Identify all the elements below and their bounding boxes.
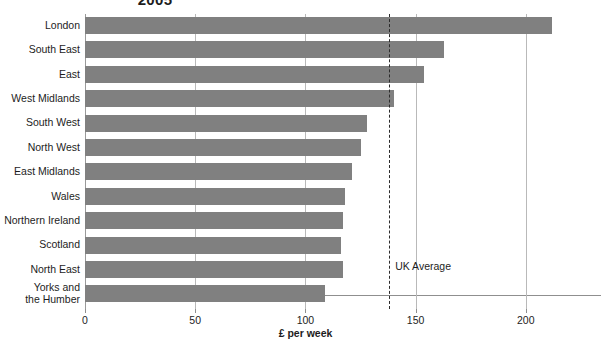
bar bbox=[85, 90, 394, 107]
chart-title: 2005 bbox=[0, 0, 310, 8]
category-label: South West bbox=[2, 117, 80, 129]
bar bbox=[85, 285, 325, 302]
bar bbox=[85, 17, 552, 34]
bar bbox=[85, 237, 341, 254]
bar bbox=[85, 212, 343, 229]
category-label-line: East Midlands bbox=[2, 166, 80, 178]
x-tick-50 bbox=[195, 309, 196, 313]
bar bbox=[85, 66, 424, 83]
bar bbox=[85, 261, 343, 278]
category-label-line: the Humber bbox=[2, 294, 80, 306]
uk-average-line bbox=[389, 14, 390, 309]
category-label: Scotland bbox=[2, 239, 80, 251]
category-label-line: Wales bbox=[2, 191, 80, 203]
category-label: South East bbox=[2, 44, 80, 56]
category-label: London bbox=[2, 20, 80, 32]
bar bbox=[85, 115, 367, 132]
x-axis-title: £ per week bbox=[85, 327, 526, 339]
bar bbox=[85, 188, 345, 205]
category-label-line: South West bbox=[2, 117, 80, 129]
x-tick-0 bbox=[85, 309, 86, 313]
category-label: Northern Ireland bbox=[2, 215, 80, 227]
category-label-line: London bbox=[2, 20, 80, 32]
category-label: West Midlands bbox=[2, 93, 80, 105]
x-tick-200 bbox=[526, 309, 527, 313]
bar-chart: 2005 LondonSouth EastEastWest MidlandsSo… bbox=[0, 0, 601, 342]
category-label-line: Northern Ireland bbox=[2, 215, 80, 227]
category-label: East bbox=[2, 69, 80, 81]
category-label: East Midlands bbox=[2, 166, 80, 178]
category-label-line: West Midlands bbox=[2, 93, 80, 105]
category-label-line: North West bbox=[2, 142, 80, 154]
category-label-line: North East bbox=[2, 264, 80, 276]
category-label-line: East bbox=[2, 69, 80, 81]
bar bbox=[85, 41, 444, 58]
x-tick-label: 50 bbox=[175, 314, 215, 326]
category-label-line: Scotland bbox=[2, 239, 80, 251]
uk-average-label: UK Average bbox=[395, 260, 451, 272]
category-label: North West bbox=[2, 142, 80, 154]
category-label-line: South East bbox=[2, 44, 80, 56]
x-tick-label: 0 bbox=[65, 314, 105, 326]
category-label: North East bbox=[2, 264, 80, 276]
x-tick-100 bbox=[305, 309, 306, 313]
bar bbox=[85, 163, 352, 180]
category-label: Wales bbox=[2, 191, 80, 203]
category-label: Yorks andthe Humber bbox=[2, 282, 80, 305]
x-tick-label: 100 bbox=[285, 314, 325, 326]
x-tick-150 bbox=[416, 309, 417, 313]
x-tick-label: 150 bbox=[396, 314, 436, 326]
x-tick-label: 200 bbox=[506, 314, 546, 326]
bar bbox=[85, 139, 361, 156]
gridline-200 bbox=[526, 14, 527, 309]
